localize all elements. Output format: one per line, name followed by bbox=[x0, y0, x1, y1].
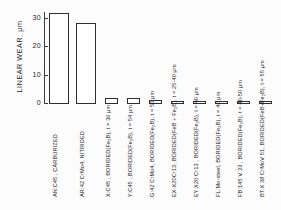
category-label-6: EY:X20 Cr13 , BORIDED(Fe₂B), t = 40 μm bbox=[194, 87, 200, 197]
category-label-0: AN:C45 , CARBURIZED bbox=[53, 134, 59, 197]
bar-1 bbox=[76, 23, 96, 104]
category-label-5: EX:X20Cr13, BORIDED(FeB + Fe₂B), t = 25-… bbox=[172, 64, 178, 197]
y-tick-label-30: 30 bbox=[19, 14, 41, 21]
category-label-3: Y:C45 , BORIDED(Fe₂B), t = 54 μm bbox=[128, 105, 134, 197]
category-label-9: BT:X 38 CrMoV 51, BORIDED(FeB+Fe₂B), t =… bbox=[260, 60, 266, 197]
y-tick-label-20: 20 bbox=[19, 42, 41, 49]
category-label-7: FL:Mo-steel, BORIDED(Fe₂B), t = 40 μm bbox=[216, 92, 222, 197]
bar-2 bbox=[105, 98, 118, 104]
category-label-4: G:42 CrMo4, BORIDED(Fe₂B), t = 56 μm bbox=[150, 91, 156, 197]
bar-chart: LINEAR WEAR, μm 30 20 10 0 AN:C45 , CARB… bbox=[0, 0, 281, 210]
bar-0 bbox=[49, 13, 69, 104]
y-tick-label-10: 10 bbox=[19, 71, 41, 78]
bar-3 bbox=[127, 98, 140, 104]
y-tick-label-0: 0 bbox=[19, 99, 41, 106]
category-label-2: X:C45 , BORIDED(Fe₂B), t = 36 μm bbox=[106, 105, 112, 197]
category-label-8: FB:145 V 33 , BORIDED(Fe₂B), t = 40-50 μ… bbox=[238, 80, 244, 197]
category-label-1: AR:42 CrMo4, NITRIDED bbox=[80, 131, 86, 197]
